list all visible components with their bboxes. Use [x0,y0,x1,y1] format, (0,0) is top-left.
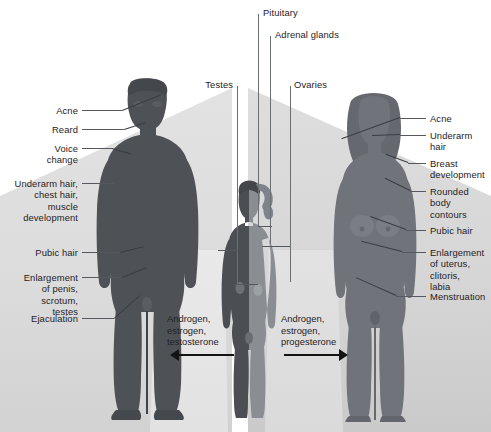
female-figure-silhouette [318,90,430,422]
adrenal-leader-line [270,36,271,244]
label-female-rounded-contours: Rounded body contours [430,186,488,220]
label-male-underarm-chest-muscle: Underarm hair, chest hair, muscle develo… [2,178,78,224]
testes-leader-line [237,86,238,286]
male-acne-line [82,110,122,111]
pituitary-leader-line [258,14,259,226]
male-beard-line [82,129,124,130]
male-enlargement-line [82,277,122,278]
label-testes: Testes [185,79,233,90]
female-menstruation-line [396,296,426,297]
arrow-head-right-icon [339,349,348,361]
label-adrenal-glands: Adrenal glands [275,29,339,40]
female-underarm-line [400,135,426,136]
female-contours-line [410,191,426,192]
label-male-voice-change: Voice change [10,143,78,166]
male-voice-line [82,148,112,149]
female-enlargement-line [402,252,426,253]
label-female-underarm-hair: Underarm hair [430,130,488,153]
male-figure-silhouette [88,74,206,422]
hormone-arrow-female [284,349,348,361]
label-female-breast-development: Breast development [430,158,490,181]
hormone-arrow-male [170,349,234,361]
label-pituitary: Pituitary [263,7,298,18]
female-pubic-line [406,230,426,231]
ovaries-connector [262,246,290,247]
testes-connector [218,250,238,251]
label-male-acne: Acne [16,105,78,116]
hormone-text-female: Androgen, estrogen, progesterone [281,313,365,348]
female-breast-line [408,163,426,164]
male-pubic-line [82,252,120,253]
ovaries-leader-line [290,86,291,282]
label-male-enlargement: Enlargement of penis, scrotum, testes [4,272,78,318]
female-acne-line [400,118,426,119]
label-female-menstruation: Menstruation [430,291,490,302]
label-female-enlargement: Enlargement of uterus, clitoris, labia [430,247,490,293]
label-ovaries: Ovaries [294,79,346,90]
label-male-pubic-hair: Pubic hair [16,247,78,258]
label-male-beard: Reard [16,124,78,135]
hormone-text-male: Androgen, estrogen, testosterone [167,313,247,348]
arrow-shaft-female [284,354,340,356]
pituitary-connector [234,284,258,285]
adrenal-connector [258,226,272,227]
arrow-shaft-male [178,354,234,356]
label-female-pubic-hair: Pubic hair [430,225,488,236]
puberty-diagram: Pituitary Adrenal glands Testes Ovaries … [0,0,491,432]
male-ejaculation-line [82,318,114,319]
label-female-acne: Acne [430,113,488,124]
label-male-ejaculation: Ejaculation [14,313,78,324]
male-underarm-line [82,183,114,184]
